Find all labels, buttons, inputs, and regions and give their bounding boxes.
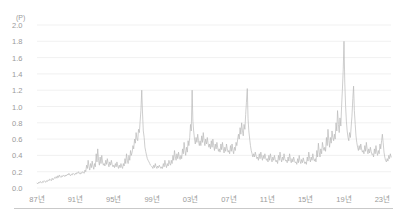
- chart-container: (P) 2.01.81.61.41.21.00.80.60.40.20.0 87…: [0, 0, 407, 218]
- series-line-1: [37, 41, 391, 184]
- bottom-divider: [14, 208, 393, 209]
- gridlines: [37, 25, 391, 188]
- line-chart-plot: [0, 0, 407, 218]
